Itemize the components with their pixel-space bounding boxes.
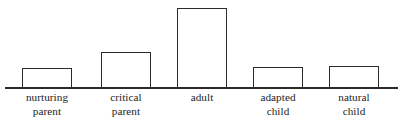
bar-nurturing-parent[interactable] [22, 68, 72, 88]
tick-label-line-2: parent [2, 105, 92, 119]
bar-adult[interactable] [177, 8, 227, 88]
bar-adapted-child[interactable] [253, 67, 303, 88]
tick-label-line-2: parent [81, 105, 171, 119]
tick-label-nurturing-parent: nurturing parent [2, 91, 92, 118]
tick-label-line-1: natural [309, 91, 399, 105]
tick-label-line-2: child [309, 105, 399, 119]
bar-critical-parent[interactable] [101, 52, 151, 88]
bar-natural-child[interactable] [329, 66, 379, 88]
egogram-bar-chart: nurturing parent critical parent adult a… [0, 0, 405, 133]
tick-label-natural-child: natural child [309, 91, 399, 118]
tick-label-line-1: nurturing [2, 91, 92, 105]
plot-area [0, 0, 405, 90]
x-axis-tick-labels: nurturing parent critical parent adult a… [0, 89, 405, 133]
